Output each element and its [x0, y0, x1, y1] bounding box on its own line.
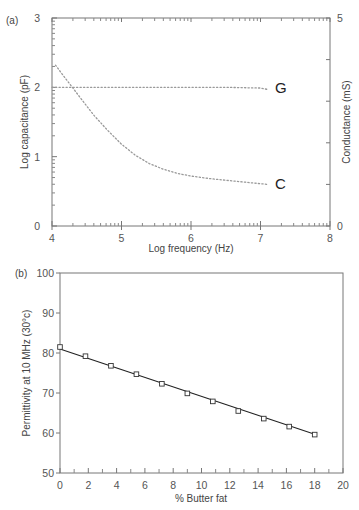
y-tick-label: 2 [34, 81, 40, 93]
panel-b-label: (b) [15, 268, 27, 279]
y-tick-label: 1 [34, 151, 40, 163]
plot-area-b [60, 273, 343, 473]
x-tick-label: 6 [142, 479, 148, 491]
curve-c [55, 65, 267, 184]
y-tick-label: 0 [34, 220, 40, 232]
data-point-marker [83, 354, 88, 359]
x-tick-label: 2 [85, 479, 91, 491]
y2-axis-label-a: Conductance (mS) [341, 80, 352, 163]
x-tick-label: 12 [224, 479, 236, 491]
x-tick-label: 16 [281, 479, 293, 491]
y-tick-label: 70 [42, 387, 54, 399]
x-tick-label: 18 [309, 479, 321, 491]
x-tick-label: 0 [57, 479, 63, 491]
data-point-marker [58, 345, 63, 350]
chart-panel-b: (b) 024681012141618205060708090100 % But… [15, 267, 349, 504]
x-axis-label-b: % Butter fat [175, 493, 227, 504]
y-tick-label: 3 [34, 12, 40, 24]
curve-label-c: C [275, 175, 286, 192]
data-point-marker [287, 424, 292, 429]
y2-tick-label: 0 [337, 220, 343, 232]
x-tick-label: 20 [337, 479, 349, 491]
data-point-marker [312, 432, 317, 437]
data-point-marker [236, 409, 241, 414]
y-tick-label: 80 [42, 347, 54, 359]
y2-tick-label: 5 [337, 12, 343, 24]
y-tick-label: 90 [42, 307, 54, 319]
data-point-marker [160, 382, 165, 387]
x-tick-label: 4 [49, 232, 55, 244]
figure-canvas: (a) 45678012305 G C Log frequency (Hz) L… [0, 0, 359, 510]
axis-ticks-a: 45678012305 [34, 12, 343, 244]
y-tick-label: 100 [36, 267, 54, 279]
x-tick-label: 14 [252, 479, 264, 491]
x-tick-label: 4 [114, 479, 120, 491]
x-tick-label: 5 [119, 232, 125, 244]
chart-panel-a: (a) 45678012305 G C Log frequency (Hz) L… [6, 12, 352, 254]
curve-label-g: G [275, 79, 287, 96]
curve-g [52, 87, 267, 89]
y-axis-label-b: Permittivity at 10 MHz (30°c) [21, 310, 32, 437]
series-a [52, 65, 267, 184]
data-point-marker [261, 416, 266, 421]
data-point-marker [211, 399, 216, 404]
data-point-marker [185, 391, 190, 396]
x-tick-label: 8 [327, 232, 333, 244]
data-point-marker [134, 372, 139, 377]
x-tick-label: 8 [170, 479, 176, 491]
x-axis-label-a: Log frequency (Hz) [148, 243, 233, 254]
series-b [58, 345, 317, 437]
axis-ticks-b: 024681012141618205060708090100 [36, 267, 349, 491]
y-tick-label: 60 [42, 427, 54, 439]
y-tick-label: 50 [42, 467, 54, 479]
x-tick-label: 10 [196, 479, 208, 491]
x-tick-label: 7 [258, 232, 264, 244]
data-point-marker [109, 364, 114, 369]
plot-area-a [52, 18, 330, 226]
panel-a-label: (a) [6, 15, 18, 26]
y-axis-label-a: Log capacitance (pF) [19, 75, 30, 169]
